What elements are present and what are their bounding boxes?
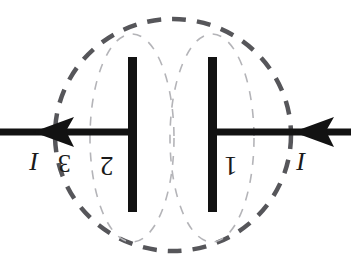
capacitor-plate-right: [208, 57, 217, 212]
label-surface-3: 3: [58, 150, 71, 176]
label-current-right: I: [297, 148, 306, 174]
figure-canvas: [0, 0, 351, 272]
label-current-left: I: [30, 148, 39, 174]
wire-right-segment: [208, 129, 351, 136]
wire-left-segment: [0, 129, 137, 136]
capacitor-plate-left: [128, 57, 137, 212]
label-surface-2: 2: [100, 152, 114, 179]
capacitor-figure: I 3 2 1 I: [0, 0, 351, 272]
label-surface-1: 1: [224, 152, 238, 179]
